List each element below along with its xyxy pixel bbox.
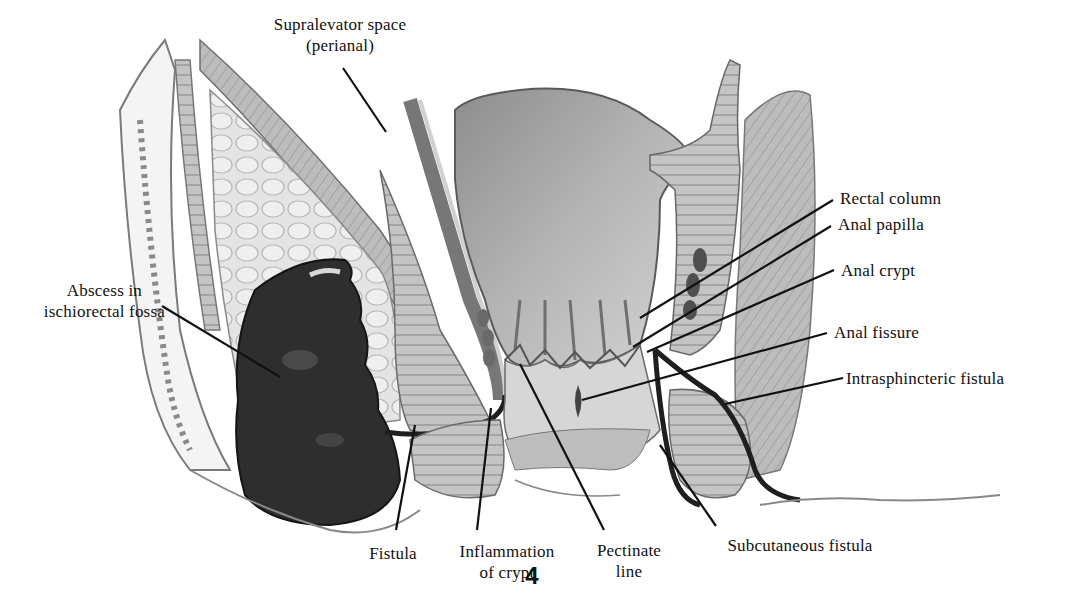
label-abscess-ischiorectal: Abscess in ischiorectal fossa (44, 280, 165, 322)
label-supralevator-space: Supralevator space (perianal) (274, 14, 406, 56)
skin-line-right (760, 495, 1000, 505)
label-fistula: Fistula (369, 543, 417, 564)
label-intrasphincteric-fistula: Intrasphincteric fistula (846, 368, 1004, 389)
figure-number: 4 (525, 562, 538, 590)
label-rectal-column: Rectal column (840, 188, 941, 209)
label-anal-papilla: Anal papilla (838, 214, 924, 235)
anatomical-figure: Supralevator space (perianal) Abscess in… (0, 0, 1065, 593)
anal-canal (504, 345, 660, 496)
label-subcutaneous-fistula: Subcutaneous fistula (727, 535, 872, 556)
label-anal-crypt: Anal crypt (841, 260, 915, 281)
leader-line-supralevator (343, 68, 386, 132)
label-inflammation-of-crypt: Inflammation of crypt (460, 541, 555, 583)
label-pectinate-line: Pectinate line (597, 540, 661, 582)
label-anal-fissure: Anal fissure (834, 322, 919, 343)
